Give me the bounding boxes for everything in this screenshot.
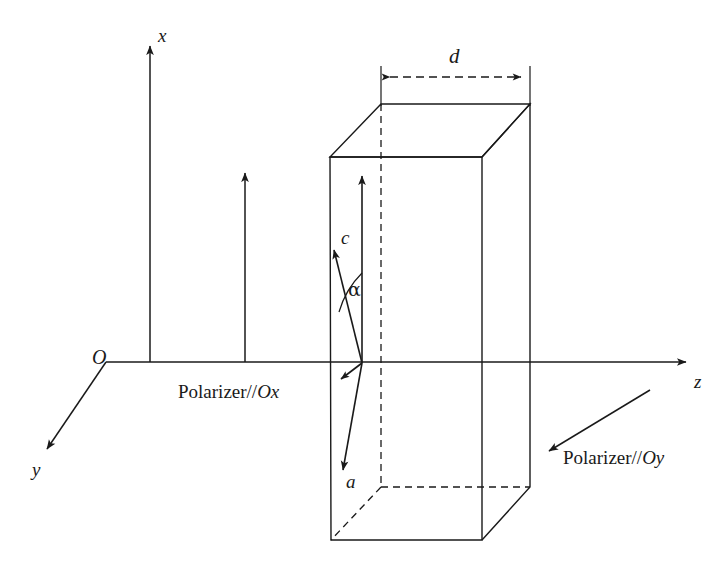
a-vector-label: a xyxy=(346,472,356,491)
a-vector-arrow xyxy=(343,363,362,470)
polarizer-y-label: Polarizer//Oy xyxy=(563,448,664,467)
polarizer-x-label-axis: Ox xyxy=(257,381,279,402)
diagram-canvas xyxy=(0,0,724,568)
thickness-dimension xyxy=(381,66,530,106)
slab-top-face xyxy=(330,104,530,157)
polarizer-y-arrow-group xyxy=(549,390,650,451)
polarizer-x-label: Polarizer//Ox xyxy=(178,382,279,401)
slab-right-face xyxy=(482,104,530,540)
slab-hidden-bottom-edge-left xyxy=(331,487,381,540)
polarizer-y-label-text: Polarizer// xyxy=(563,447,642,468)
thickness-label: d xyxy=(449,46,460,67)
axis-group xyxy=(47,46,686,449)
y-axis-line xyxy=(47,362,106,449)
optical-diagram-figure: O x y z d c a α Polarizer//Ox Polarizer/… xyxy=(0,0,724,568)
polarizer-x-label-text: Polarizer// xyxy=(178,381,257,402)
z-axis-label: z xyxy=(694,372,701,391)
polarizer-y-arrow xyxy=(549,390,650,451)
c-vector-arrow xyxy=(334,250,362,363)
crystal-slab xyxy=(330,104,530,540)
alpha-angle-label: α xyxy=(348,280,361,299)
x-axis-label: x xyxy=(158,26,166,45)
crystal-axis-vectors xyxy=(334,176,362,470)
polarizer-y-label-axis: Oy xyxy=(642,447,664,468)
origin-label: O xyxy=(92,347,106,367)
c-vector-label: c xyxy=(341,228,349,247)
y-axis-label: y xyxy=(32,460,40,479)
